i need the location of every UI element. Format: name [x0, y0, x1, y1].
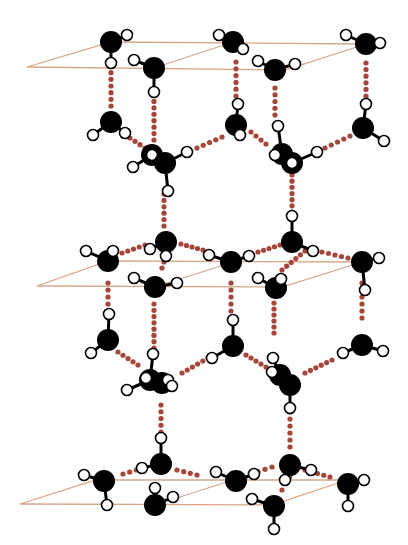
hbond-dot	[271, 300, 276, 305]
hbond-dot	[347, 133, 352, 138]
water-molecule	[86, 309, 120, 359]
oxygen-atom	[263, 495, 285, 517]
hbond-dot	[287, 444, 292, 449]
hbond-dot	[248, 355, 253, 360]
hbond-dot	[272, 244, 277, 249]
hydrogen-atom	[79, 470, 90, 481]
hbond-dot	[233, 66, 238, 71]
hbond-dot	[158, 409, 163, 414]
hbond-dot	[308, 368, 313, 373]
hbond-dot	[253, 133, 258, 138]
hydrogen-atom	[247, 494, 258, 505]
hbond-dot	[363, 67, 368, 72]
hydrogen-atom	[172, 278, 183, 289]
hbond-dot	[131, 246, 136, 251]
hbond-dot	[284, 264, 289, 269]
water-molecule	[279, 374, 301, 414]
hbond-dot	[179, 370, 184, 375]
water-molecule	[281, 211, 319, 257]
hbond-dot	[151, 125, 156, 130]
hbond-dot	[324, 360, 329, 365]
hbond-dot	[332, 252, 337, 257]
hbond-dot	[363, 74, 368, 79]
hbond-dot	[161, 204, 166, 209]
hbond-dot	[151, 320, 156, 325]
hbond-dot	[319, 249, 324, 254]
oxygen-atom	[279, 454, 301, 476]
hydrogen-atom	[129, 273, 140, 284]
hydrogen-atom	[287, 211, 298, 222]
hbond-dot	[151, 327, 156, 332]
hbond-dot	[151, 339, 156, 344]
hbond-dot	[289, 260, 294, 265]
hbond-dot	[151, 301, 156, 306]
hbond-dot	[272, 99, 277, 104]
hbond-dot	[105, 301, 110, 306]
hbond-dot	[287, 416, 292, 421]
hbond-dot	[201, 143, 206, 148]
hbond-dot	[271, 312, 276, 317]
hydrogen-atom	[106, 58, 117, 69]
water-molecule	[338, 334, 389, 359]
hydrogen-atom	[122, 385, 133, 396]
water-molecule	[225, 99, 247, 141]
hbond-dot	[151, 131, 156, 136]
hbond-dot	[271, 330, 276, 335]
hydrogen-atom	[104, 309, 115, 320]
hbond-dot	[188, 471, 193, 476]
hbond-dot	[195, 246, 200, 251]
water-molecule	[337, 473, 370, 512]
hbond-dot	[228, 280, 233, 285]
hbond-dot	[151, 137, 156, 142]
hbond-dot	[253, 358, 258, 363]
hbond-dot	[272, 106, 277, 111]
hbond-dot	[125, 356, 130, 361]
hydrogen-atom	[207, 353, 218, 364]
hydrogen-atom	[374, 253, 385, 264]
hbond-dot	[266, 246, 271, 251]
hbond-dot	[258, 137, 263, 142]
hbond-dot	[151, 99, 156, 104]
oxygen-atom	[264, 59, 286, 81]
hbond-dot	[120, 353, 125, 358]
hbond-dot	[151, 105, 156, 110]
hydrogen-atom	[102, 500, 113, 511]
water-molecule	[129, 55, 166, 98]
hbond-dot	[174, 467, 179, 472]
hbond-dot	[151, 118, 156, 123]
hbond-dot	[263, 141, 268, 146]
hydrogen-atom	[268, 353, 279, 364]
hbond-dot	[327, 474, 332, 479]
hbond-dot	[161, 211, 166, 216]
hydrogen-atom	[312, 147, 323, 158]
hydrogen-atom	[148, 349, 159, 360]
hydrogen-atom	[361, 99, 372, 110]
hbond-dot	[233, 87, 238, 92]
oxygen-atom	[351, 334, 373, 356]
hbond-dot	[289, 203, 294, 208]
hbond-dot	[329, 142, 334, 147]
oxygen-atom	[355, 33, 377, 55]
hbond-dot	[108, 103, 113, 108]
hbond-dot	[105, 280, 110, 285]
oxygen-atom	[352, 117, 374, 139]
hydrogen-atom	[375, 38, 386, 49]
top-plane	[27, 42, 366, 70]
hbond-dot	[233, 80, 238, 85]
oxygen-atom	[100, 111, 122, 133]
water-molecule	[145, 231, 178, 262]
hbond-dot	[293, 256, 298, 261]
hbond-dot	[161, 198, 166, 203]
hydrogen-atom	[137, 463, 148, 474]
oxygen-atom	[144, 494, 166, 516]
hydrogen-atom	[128, 162, 139, 173]
hbond-dot	[289, 179, 294, 184]
hbond-dot	[298, 252, 303, 257]
hbond-dot	[120, 471, 125, 476]
hbond-dot	[161, 217, 166, 222]
oxygen-atom	[154, 152, 176, 174]
hydrogen-atom	[235, 130, 246, 141]
water-molecule	[144, 483, 179, 517]
water-molecule	[279, 454, 317, 486]
oxygen-atom	[281, 231, 303, 253]
